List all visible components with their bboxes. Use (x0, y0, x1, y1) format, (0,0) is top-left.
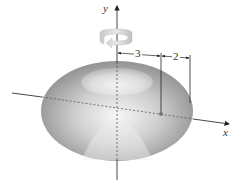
minor-radius-label: 2 (172, 51, 180, 62)
torus-diagram: y x 3 2 (0, 0, 232, 181)
major-radius-label: 3 (134, 48, 142, 59)
x-axis-back (12, 93, 42, 97)
tube-center-point (159, 112, 163, 116)
x-axis (193, 119, 229, 124)
y-axis-label: y (103, 3, 108, 14)
x-axis-label: x (223, 127, 228, 138)
rotation-arrow-icon (100, 29, 132, 48)
torus-figure (0, 0, 232, 181)
